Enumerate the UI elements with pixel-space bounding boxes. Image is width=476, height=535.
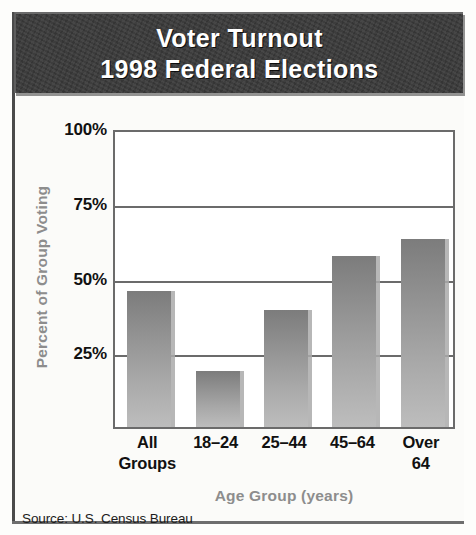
title-line-2: 1998 Federal Elections: [100, 54, 378, 85]
bar-25–44: [264, 310, 308, 427]
y-tick-label-75: 75%: [45, 195, 107, 215]
x-axis-title: Age Group (years): [113, 487, 455, 505]
x-tick-label-line: Over: [381, 432, 461, 453]
x-tick-label-4: Over64: [381, 432, 461, 474]
plot-area: [113, 130, 455, 429]
bars-layer: [115, 132, 453, 427]
bar-45–64: [332, 256, 376, 427]
chart-area: Percent of Group Voting 100%75%50%25% Al…: [0, 93, 476, 535]
bar-all-groups: [127, 291, 171, 427]
bar-18–24: [196, 371, 240, 428]
bar-over-64: [401, 239, 445, 427]
y-tick-label-100: 100%: [45, 120, 107, 140]
source-note: Source: U.S. Census Bureau: [22, 511, 193, 526]
x-axis-tick-labels: AllGroups18–2425–4445–64Over64: [113, 432, 455, 488]
y-axis-tick-labels: 100%75%50%25%: [43, 93, 107, 535]
title-line-1: Voter Turnout: [156, 23, 323, 54]
y-tick-label-50: 50%: [45, 270, 107, 290]
figure-container: Voter Turnout 1998 Federal Elections Per…: [0, 0, 476, 535]
y-tick-label-25: 25%: [45, 344, 107, 364]
x-tick-label-line: Groups: [107, 453, 187, 474]
x-tick-label-line: 64: [381, 453, 461, 474]
title-banner: Voter Turnout 1998 Federal Elections: [14, 12, 463, 93]
